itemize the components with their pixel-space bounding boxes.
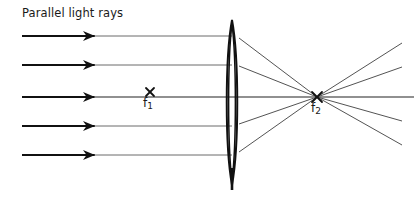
ray-diagram-canvas: Parallel light rays f1 f2 <box>0 0 414 197</box>
focal-point-f1-subscript: 1 <box>147 101 153 111</box>
refracted-ray-group <box>239 38 317 152</box>
diverging-ray <box>317 97 402 121</box>
refracted-ray <box>239 66 317 97</box>
diverging-ray-group <box>317 43 402 145</box>
refracted-ray <box>239 97 317 124</box>
focal-point-f2-label: f2 <box>311 101 321 116</box>
refracted-ray <box>239 38 317 97</box>
diverging-ray <box>317 67 402 97</box>
focal-point-f1-label: f1 <box>143 96 153 111</box>
focal-point-f2-subscript: 2 <box>315 106 321 116</box>
incident-ray-group <box>22 36 232 155</box>
diverging-ray <box>317 43 402 97</box>
diagram-title: Parallel light rays <box>22 6 123 20</box>
refracted-ray <box>239 97 317 152</box>
optics-diagram <box>0 0 414 197</box>
lens-inner-outline <box>229 24 236 181</box>
converging-lens <box>227 20 238 190</box>
focal-marker-group <box>146 88 322 102</box>
diverging-ray <box>317 97 402 145</box>
